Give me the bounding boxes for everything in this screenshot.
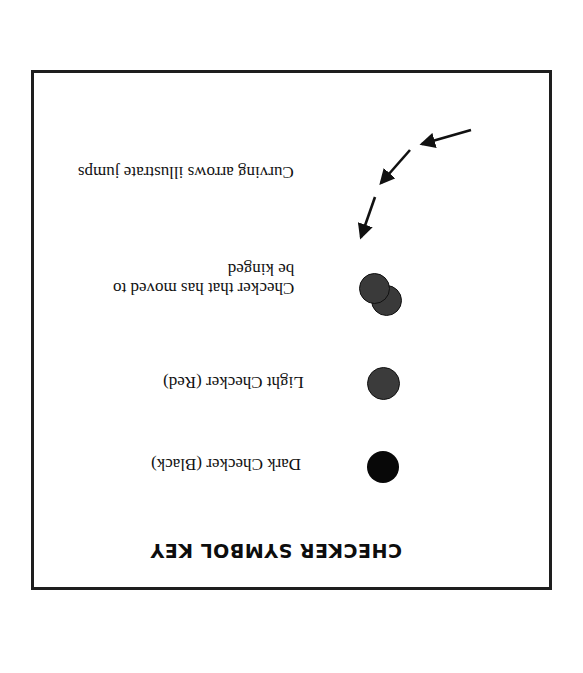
jump-arrows-label: Curving arrows illustrate jumps: [78, 163, 294, 182]
jump-arrows-icon: [0, 0, 583, 673]
